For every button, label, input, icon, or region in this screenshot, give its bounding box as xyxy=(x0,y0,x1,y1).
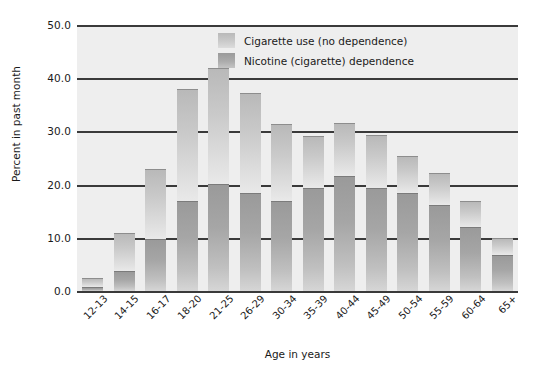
bar-group[interactable] xyxy=(82,25,103,291)
bar-segment-cigarette-use[interactable] xyxy=(460,201,481,228)
bar-segment-cigarette-use[interactable] xyxy=(114,233,135,271)
y-tick-label: 30.0 xyxy=(25,125,71,137)
bar-group[interactable] xyxy=(492,25,513,291)
bar-segment-cigarette-use[interactable] xyxy=(145,169,166,239)
bar-segment-nicotine-dependence[interactable] xyxy=(208,184,229,291)
bar-group[interactable] xyxy=(145,25,166,291)
y-tick-label: 20.0 xyxy=(25,179,71,191)
legend-swatch-light-gray-icon xyxy=(218,33,235,48)
y-tick-label: 40.0 xyxy=(25,72,71,84)
bar-segment-nicotine-dependence[interactable] xyxy=(240,193,261,291)
y-tick-label: 10.0 xyxy=(25,232,71,244)
bar-segment-nicotine-dependence[interactable] xyxy=(366,188,387,291)
bar-group[interactable] xyxy=(460,25,481,291)
chart-legend: Cigarette use (no dependence) Nicotine (… xyxy=(218,28,436,74)
bar-segment-cigarette-use[interactable] xyxy=(208,68,229,184)
bar-segment-nicotine-dependence[interactable] xyxy=(303,188,324,291)
legend-label-nicotine-dependence: Nicotine (cigarette) dependence xyxy=(244,55,414,67)
legend-item-nicotine-dependence: Nicotine (cigarette) dependence xyxy=(218,52,436,69)
bar-segment-nicotine-dependence[interactable] xyxy=(177,201,198,291)
x-axis-title: Age in years xyxy=(77,348,518,360)
bar-segment-cigarette-use[interactable] xyxy=(82,278,103,288)
chart-figure: Percent in past month 0.010.020.030.040.… xyxy=(0,0,534,371)
y-tick-label: 0.0 xyxy=(25,285,71,297)
bar-segment-cigarette-use[interactable] xyxy=(397,156,418,192)
bar-segment-cigarette-use[interactable] xyxy=(240,93,261,194)
bar-segment-cigarette-use[interactable] xyxy=(429,173,450,204)
x-axis-tick-labels: 12-1314-1516-1718-2021-2526-2930-3435-39… xyxy=(77,293,518,345)
y-tick-label: 50.0 xyxy=(25,19,71,31)
y-axis-tick-labels: 0.010.020.030.040.050.0 xyxy=(19,25,71,291)
bar-segment-nicotine-dependence[interactable] xyxy=(429,205,450,291)
bar-segment-nicotine-dependence[interactable] xyxy=(271,201,292,291)
bar-segment-cigarette-use[interactable] xyxy=(303,136,324,189)
bar-segment-nicotine-dependence[interactable] xyxy=(82,287,103,291)
bar-segment-nicotine-dependence[interactable] xyxy=(334,176,355,291)
bar-segment-nicotine-dependence[interactable] xyxy=(460,227,481,291)
bar-segment-nicotine-dependence[interactable] xyxy=(114,271,135,291)
bar-segment-cigarette-use[interactable] xyxy=(334,123,355,176)
bar-group[interactable] xyxy=(114,25,135,291)
legend-label-cigarette-use: Cigarette use (no dependence) xyxy=(244,35,407,47)
legend-item-cigarette-use: Cigarette use (no dependence) xyxy=(218,32,436,49)
bar-segment-nicotine-dependence[interactable] xyxy=(397,193,418,291)
bar-segment-cigarette-use[interactable] xyxy=(366,135,387,188)
bar-group[interactable] xyxy=(177,25,198,291)
legend-swatch-dark-gray-icon xyxy=(218,53,235,68)
bar-segment-cigarette-use[interactable] xyxy=(492,238,513,254)
bar-segment-nicotine-dependence[interactable] xyxy=(492,255,513,291)
bar-segment-nicotine-dependence[interactable] xyxy=(145,239,166,291)
bar-segment-cigarette-use[interactable] xyxy=(271,124,292,201)
bar-segment-cigarette-use[interactable] xyxy=(177,89,198,201)
